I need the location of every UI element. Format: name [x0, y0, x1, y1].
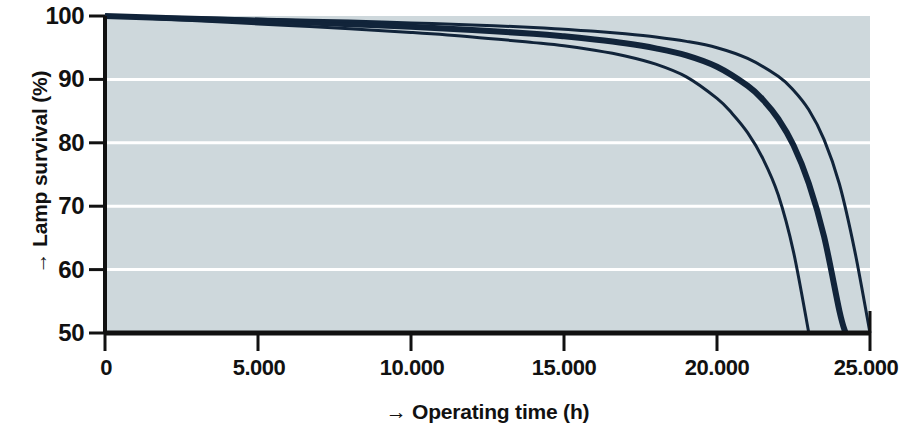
plot-canvas: [0, 0, 900, 437]
lamp-survival-chart: → Lamp survival (%) 100 90 80 70 60 50 0…: [0, 0, 900, 437]
